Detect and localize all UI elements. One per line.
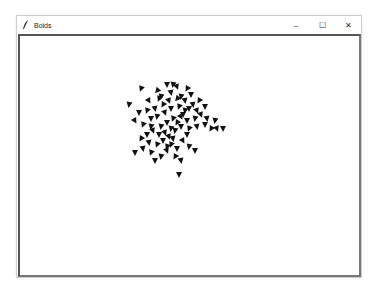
boid-triangle <box>169 115 177 123</box>
boid-triangle <box>168 90 175 97</box>
feather-icon <box>21 20 31 30</box>
boid-triangle <box>132 150 138 156</box>
boid-triangle <box>197 111 205 119</box>
boids-window: Boids – ☐ ✕ <box>16 15 362 278</box>
boid-triangle <box>161 109 169 117</box>
boid-triangle <box>164 82 170 88</box>
boid-triangle <box>170 136 177 143</box>
boid-flock <box>20 36 362 279</box>
boid-triangle <box>152 106 159 113</box>
boid-triangle <box>139 121 147 129</box>
boid-triangle <box>143 107 151 115</box>
boid-triangle <box>156 132 162 138</box>
boid-triangle <box>148 116 154 122</box>
boid-triangle <box>220 126 226 132</box>
boid-triangle <box>184 118 190 124</box>
boid-triangle <box>158 154 165 161</box>
boid-triangle <box>195 97 203 105</box>
boid-triangle <box>146 140 153 147</box>
boid-triangle <box>184 132 190 138</box>
boid-triangle <box>159 101 167 109</box>
boid-triangle <box>186 144 193 151</box>
boid-triangle <box>147 149 155 157</box>
window-title: Boids <box>34 22 52 29</box>
boid-triangle <box>137 85 145 93</box>
boids-canvas[interactable] <box>18 34 361 277</box>
boid-triangle <box>207 125 215 133</box>
boid-triangle <box>213 125 221 133</box>
boid-triangle <box>192 116 199 123</box>
boid-triangle <box>204 116 211 123</box>
boid-triangle <box>171 153 179 161</box>
window-controls: – ☐ ✕ <box>283 16 361 34</box>
boid-triangle <box>154 114 161 121</box>
boid-triangle <box>158 124 165 131</box>
boid-triangle <box>140 146 147 153</box>
boid-triangle <box>145 97 153 105</box>
boid-triangle <box>182 98 189 105</box>
boid-triangle <box>136 110 142 116</box>
boid-triangle <box>174 146 180 152</box>
boid-triangle <box>202 122 208 128</box>
boid-triangle <box>194 124 201 131</box>
close-button[interactable]: ✕ <box>335 16 361 34</box>
boid-triangle <box>202 104 208 110</box>
boid-triangle <box>164 120 170 126</box>
boid-triangle <box>126 102 133 109</box>
boid-triangle <box>183 85 191 93</box>
title-bar[interactable]: Boids – ☐ ✕ <box>17 16 361 34</box>
boid-triangle <box>131 117 139 125</box>
boid-triangle <box>144 132 150 138</box>
boid-triangle <box>160 138 166 144</box>
boid-triangle <box>179 137 187 145</box>
boid-triangle <box>178 158 185 165</box>
boid-triangle <box>153 141 161 149</box>
boid-triangle <box>168 106 174 112</box>
boid-triangle <box>152 158 158 164</box>
boid-triangle <box>176 172 182 178</box>
boid-triangle <box>212 118 219 125</box>
boid-triangle <box>175 103 183 111</box>
boid-triangle <box>188 92 194 98</box>
boid-triangle <box>185 125 193 133</box>
boid-triangle <box>192 148 198 154</box>
maximize-button[interactable]: ☐ <box>309 16 335 34</box>
boid-triangle <box>137 135 145 143</box>
boid-triangle <box>178 124 184 130</box>
minimize-button[interactable]: – <box>283 16 309 34</box>
